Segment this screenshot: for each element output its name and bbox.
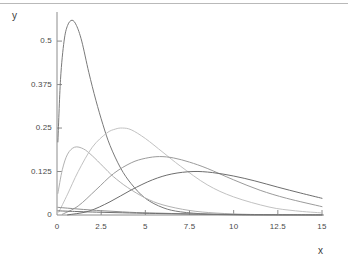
y-tick-label: 0.375 bbox=[6, 80, 52, 89]
x-tick-label: 15 bbox=[313, 222, 331, 231]
x-tick-label: 12.5 bbox=[269, 222, 287, 231]
x-tick-label: 0 bbox=[48, 222, 66, 231]
x-tick-label: 2.5 bbox=[92, 222, 110, 231]
data-curve bbox=[58, 147, 322, 215]
y-axis-title: y bbox=[12, 10, 17, 21]
y-tick-label: 0.125 bbox=[6, 167, 52, 176]
x-tick-label: 5 bbox=[136, 222, 154, 231]
data-curve bbox=[59, 128, 322, 213]
data-curve bbox=[68, 171, 322, 214]
x-tick-label: 10 bbox=[225, 222, 243, 231]
y-tick-label: 0.5 bbox=[6, 36, 52, 45]
y-tick-label: 0 bbox=[6, 210, 52, 219]
y-tick-label: 0.25 bbox=[6, 123, 52, 132]
x-tick-label: 7.5 bbox=[181, 222, 199, 231]
chart-figure: y x 02.557.51012.515 00.1250.250.3750.5 bbox=[0, 0, 348, 267]
data-curves bbox=[58, 20, 322, 215]
x-axis-title: x bbox=[318, 245, 323, 256]
data-curve bbox=[58, 20, 322, 215]
axis-lines bbox=[57, 12, 324, 215]
